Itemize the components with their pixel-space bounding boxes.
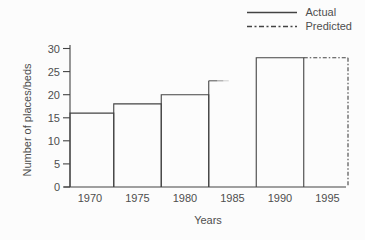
- x-tick-label-1995: 1995: [315, 192, 339, 204]
- y-tick-label-25: 25: [48, 66, 60, 78]
- x-tick-label-1985: 1985: [220, 192, 244, 204]
- actual-line-swatch: [247, 10, 297, 15]
- x-tick-label-1970: 1970: [78, 192, 102, 204]
- bar-1980: [161, 95, 209, 187]
- figure: 051015202530197019751980198519901995 Act…: [0, 0, 365, 240]
- x-tick-label-1980: 1980: [173, 192, 197, 204]
- legend-label-predicted: Predicted: [306, 20, 352, 33]
- bar-1990: [256, 58, 304, 187]
- y-tick-label-15: 15: [48, 112, 60, 124]
- predicted-line-swatch: [247, 24, 297, 29]
- bar-1970: [70, 113, 114, 187]
- y-tick-label-0: 0: [54, 181, 60, 193]
- legend-item-actual: Actual: [247, 6, 352, 19]
- bar-1975: [114, 104, 162, 187]
- legend-item-predicted: Predicted: [247, 20, 352, 33]
- legend-label-actual: Actual: [306, 6, 337, 19]
- y-axis-title: Number of places/beds: [21, 63, 33, 176]
- x-tick-label-1990: 1990: [268, 192, 292, 204]
- legend: Actual Predicted: [247, 6, 352, 33]
- y-tick-label-20: 20: [48, 89, 60, 101]
- x-tick-label-1975: 1975: [125, 192, 149, 204]
- y-tick-label-30: 30: [48, 43, 60, 55]
- y-tick-label-5: 5: [54, 158, 60, 170]
- y-tick-label-10: 10: [48, 135, 60, 147]
- x-axis-title: Years: [194, 214, 222, 226]
- chart-canvas: 051015202530197019751980198519901995: [0, 0, 365, 240]
